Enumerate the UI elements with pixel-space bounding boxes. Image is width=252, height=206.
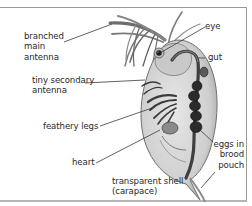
label-transparent-shell: transparent shell (carapace) — [112, 176, 183, 197]
eye-organ — [154, 48, 164, 58]
heart-organ — [162, 122, 178, 134]
label-tiny-secondary-antenna: tiny secondary antenna — [32, 75, 94, 96]
label-eye: eye — [205, 21, 220, 31]
label-branched-main-antenna: branched main antenna — [24, 31, 64, 62]
label-eggs-in-brood-pouch: eggs in brood pouch — [208, 139, 244, 170]
label-heart: heart — [72, 157, 94, 167]
label-feathery-legs: feathery legs — [43, 121, 98, 131]
label-gut: gut — [208, 52, 222, 62]
